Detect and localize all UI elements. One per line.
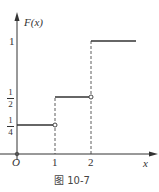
origin-label: O — [12, 157, 20, 168]
y-tick-half: 1 2 — [7, 88, 14, 109]
x-tick-2: 2 — [88, 157, 94, 168]
y-axis-label: F(x) — [24, 17, 43, 28]
y-tick-quarter-denominator: 4 — [8, 128, 13, 137]
y-tick-half-numerator: 1 — [8, 88, 13, 97]
y-tick-quarter-numerator: 1 — [8, 116, 13, 125]
y-tick-half-denominator: 2 — [8, 100, 13, 109]
cdf-plot — [0, 0, 159, 192]
y-tick-quarter: 1 4 — [7, 116, 14, 137]
open-circle-x1 — [53, 123, 57, 127]
x-axis-label: x — [143, 158, 148, 169]
figure-caption: 图 10-7 — [54, 172, 90, 187]
y-tick-1: 1 — [9, 36, 15, 47]
x-tick-1: 1 — [52, 157, 58, 168]
open-circle-x2 — [89, 95, 93, 99]
x-axis-arrow-icon — [149, 152, 158, 157]
y-axis-arrow-icon — [15, 12, 20, 21]
